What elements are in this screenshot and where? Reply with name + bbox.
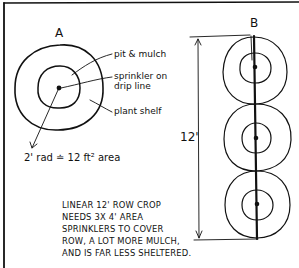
label-pit-mulch: pit & mulch [114,49,166,59]
label-sprinkler-1: sprinkler on [114,71,167,81]
radius-note: 2' rad ≐ 12 ft² area [24,152,120,163]
caption-line-3: SPRINKLERS TO COVER [62,224,163,234]
label-sprinkler-2: drip line [114,81,151,91]
diagram-canvas: A pit & mulch sprinkler on drip line pla… [0,0,299,268]
caption-line-4: ROW, A LOT MORE MULCH, [62,236,180,246]
dimension-top-tick [190,35,250,37]
dimension-bottom-tick [194,239,258,240]
panel-a-title: A [55,26,64,40]
caption-line-2: NEEDS 3X 4' AREA [62,212,143,222]
sketch-diagram: A pit & mulch sprinkler on drip line pla… [0,0,299,268]
radius-arrow [32,90,58,148]
panel-a: A pit & mulch sprinkler on drip line pla… [15,26,167,163]
caption-line-1: LINEAR 12' ROW CROP [62,200,161,210]
panel-b-title: B [250,16,258,30]
label-plant-shelf: plant shelf [114,106,162,116]
caption-block: LINEAR 12' ROW CROP NEEDS 3X 4' AREA SPR… [62,200,191,258]
drip-line-double [251,36,252,60]
leader-sprinkler [61,77,112,88]
panel-b: B 12' [180,16,291,240]
caption-line-5: AND IS FAR LESS SHELTERED. [62,248,191,258]
length-label: 12' [180,130,199,144]
